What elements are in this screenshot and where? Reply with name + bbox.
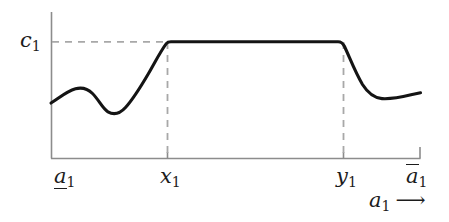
- right-arrow-icon: ⟶: [390, 188, 425, 212]
- x-axis-title-base: a: [369, 188, 382, 212]
- x-axis-title: a1⟶: [369, 190, 426, 213]
- plot-figure: c1 a1 x1 y1 a1 a1⟶: [0, 0, 449, 222]
- label-c1-subscript: 1: [32, 38, 41, 54]
- x-axis-label-y1: y1: [336, 166, 357, 189]
- label-y1-base: y: [336, 164, 348, 188]
- label-a-lower-base: a: [54, 166, 67, 189]
- label-c1-base: c: [20, 28, 32, 52]
- x-axis-label-a-upper: a1: [406, 164, 427, 189]
- label-x1-base: x: [160, 164, 172, 188]
- objective-curve: [51, 42, 421, 114]
- x-axis-label-a-lower: a1: [54, 166, 75, 189]
- label-a-lower-subscript: 1: [67, 174, 76, 190]
- label-a-upper-base: a: [406, 164, 419, 187]
- label-y1-subscript: 1: [348, 174, 357, 190]
- y-axis-label-c1: c1: [20, 30, 41, 53]
- x-axis-label-x1: x1: [160, 166, 181, 189]
- label-x1-subscript: 1: [172, 174, 181, 190]
